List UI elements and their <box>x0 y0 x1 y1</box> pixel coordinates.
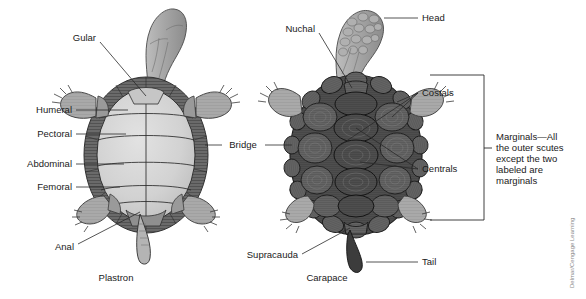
marginals-note-line-3: except the two <box>496 153 557 164</box>
marginals-note-line-2: the outer scutes <box>496 142 564 153</box>
marginals-note-line-1: Marginals—All <box>496 131 557 142</box>
figure-turtle-shell-anatomy: Gular Humeral Pectoral Abdominal Femoral… <box>0 0 586 299</box>
label-pectoral: Pectoral <box>37 128 72 139</box>
label-centrals: Centrals <box>422 163 458 174</box>
label-head: Head <box>422 12 445 23</box>
marginals-note-line-5: marginals <box>496 175 537 186</box>
label-costals: Costals <box>422 87 454 98</box>
label-bridge: Bridge <box>229 139 256 150</box>
label-abdominal: Abdominal <box>27 158 72 169</box>
marginals-note-line-4: labeled are <box>496 164 543 175</box>
caption-carapace: Carapace <box>306 272 347 283</box>
label-tail: Tail <box>422 256 436 267</box>
label-supracauda: Supracauda <box>247 249 299 260</box>
label-nuchal: Nuchal <box>285 23 315 34</box>
anatomy-diagram-svg: Gular Humeral Pectoral Abdominal Femoral… <box>0 0 586 299</box>
label-gular: Gular <box>73 32 96 43</box>
label-anal: Anal <box>55 241 74 252</box>
credit-text: Delmar/Cengage Learning <box>569 218 575 288</box>
label-humeral: Humeral <box>36 104 72 115</box>
label-femoral: Femoral <box>37 181 72 192</box>
caption-plastron: Plastron <box>99 272 134 283</box>
